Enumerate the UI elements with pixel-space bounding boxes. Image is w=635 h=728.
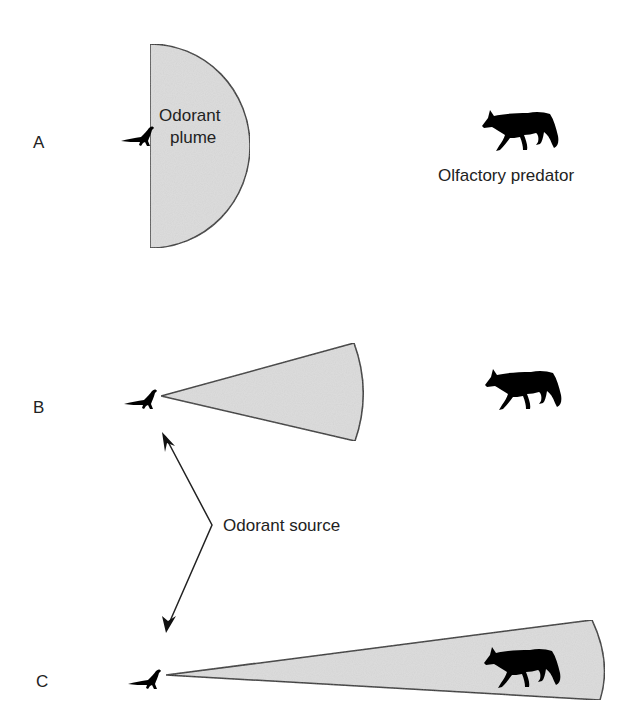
odorant-plume-diagram: A B C Odorant plume Olfactory predator O…: [0, 0, 635, 728]
odorant-source-label: Odorant source: [223, 517, 340, 534]
predator-label: Olfactory predator: [438, 167, 574, 184]
diagram-graphics: [0, 0, 635, 728]
panel-label-b: B: [33, 399, 44, 416]
panel-label-a: A: [33, 134, 44, 151]
plume-label-line2: plume: [170, 129, 216, 146]
odorant-source-bird-b: [124, 390, 157, 410]
odorant-source-arrows: [165, 436, 212, 628]
odorant-source-bird-a: [121, 127, 154, 147]
plume-b: [161, 343, 363, 441]
arrowhead-down-icon: [162, 616, 176, 633]
odorant-source-bird-c: [128, 670, 161, 690]
plume-label-line1: Odorant: [159, 107, 220, 124]
predator-wolf-a: [482, 110, 558, 151]
panel-label-c: C: [36, 673, 48, 690]
arrowhead-up-icon: [162, 432, 175, 452]
predator-wolf-b: [485, 369, 561, 410]
